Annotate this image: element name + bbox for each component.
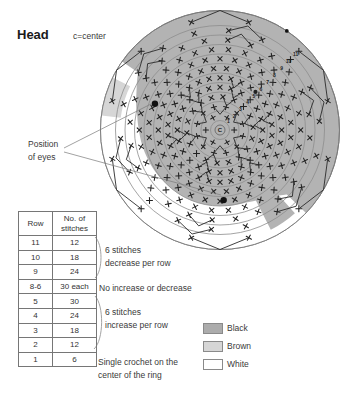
table-row: 318	[19, 323, 97, 338]
legend-item-white: White	[203, 355, 251, 373]
table-row: 924	[19, 265, 97, 280]
round-number: 10	[286, 58, 292, 64]
table-row: 1018	[19, 250, 97, 265]
table-row: 8-630 each	[19, 279, 97, 294]
page-title: Head	[17, 27, 49, 42]
round-number: 7	[266, 79, 269, 85]
table-row: 424	[19, 308, 97, 323]
row-column-header: Row	[19, 212, 53, 236]
row1-annotation: Single crochet on the center of the ring	[98, 356, 178, 382]
round-number: 8	[273, 72, 276, 78]
round-number: 1	[227, 118, 230, 124]
legend-item-brown: Brown	[203, 337, 251, 355]
round-number: 6	[260, 86, 263, 92]
table-row: 16	[19, 352, 97, 367]
brown-swatch	[203, 341, 223, 352]
eye-dot	[220, 197, 226, 203]
white-swatch	[203, 359, 223, 370]
stitches-column-header: No. of stitches	[53, 212, 97, 236]
legend-item-black: Black	[203, 319, 251, 337]
eyes-position-line2: of eyes	[28, 151, 58, 164]
edge-marker-dot	[285, 29, 289, 33]
round-number: 2	[233, 113, 236, 119]
round-number: 3	[239, 106, 242, 112]
table-header-row: Row No. of stitches	[19, 212, 97, 236]
no-change-annotation: No increase or decrease	[99, 282, 192, 295]
decrease-annotation: 6 stitches decrease per row	[105, 244, 171, 270]
black-swatch	[203, 323, 223, 334]
center-label: C	[218, 127, 223, 133]
round-number: 4	[246, 99, 249, 105]
eye-dot	[152, 101, 158, 107]
color-legend: Black Brown White	[203, 319, 251, 373]
round-number: 9	[280, 65, 283, 71]
increase-annotation: 6 stitches increase per row	[105, 306, 168, 332]
eyes-position-label: Position of eyes	[28, 138, 58, 164]
stitch-count-table: Row No. of stitches 1112 1018 924 8-630 …	[18, 211, 97, 367]
center-abbreviation-note: c=center	[73, 31, 106, 41]
crochet-pattern-page: 1234567891011C Head c=center Position of…	[0, 0, 359, 397]
table-row: 530	[19, 294, 97, 309]
table-row: 212	[19, 338, 97, 353]
table-row: 1112	[19, 236, 97, 251]
round-number: 11	[293, 51, 299, 57]
eyes-position-line1: Position	[28, 138, 58, 151]
stitch-marker-dot	[253, 90, 257, 94]
